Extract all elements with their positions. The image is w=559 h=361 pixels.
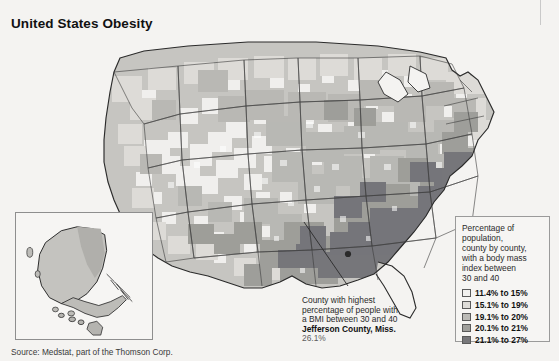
alaska-hawaii-inset	[15, 212, 153, 340]
callout-annotation: County with highest percentage of people…	[302, 296, 454, 344]
highest-county-marker	[345, 251, 351, 257]
legend-heading: Percentage of population, county by coun…	[462, 223, 544, 284]
legend-row: 15.1% to 19%	[462, 299, 544, 311]
legend-row: 11.4% to 15%	[462, 288, 544, 300]
legend-row: 20.1% to 21%	[462, 322, 544, 334]
legend-row: 19.1% to 20%	[462, 311, 544, 323]
legend-label-3: 19.1% to 20%	[475, 312, 528, 322]
callout-value: 26.1%	[302, 334, 454, 344]
legend-label-5: 21.1% to 27%	[475, 335, 528, 345]
inset-map-svg	[16, 213, 152, 339]
page-edge-artifact	[120, 0, 541, 25]
legend-row: 21.1% to 27%	[462, 334, 544, 346]
source-note: Source: Medstat, part of the Thomson Cor…	[11, 347, 173, 357]
legend-swatch-3	[462, 313, 471, 321]
page-title: United States Obesity	[11, 16, 153, 31]
legend-swatch-4	[462, 324, 471, 332]
legend: Percentage of population, county by coun…	[455, 216, 550, 342]
legend-label-2: 15.1% to 19%	[475, 300, 528, 310]
legend-swatch-2	[462, 301, 471, 309]
figure-container: United States Obesity	[0, 0, 559, 361]
legend-label-4: 20.1% to 21%	[475, 323, 528, 333]
legend-swatch-1	[462, 289, 471, 297]
legend-swatch-5	[462, 336, 471, 344]
legend-label-1: 11.4% to 15%	[475, 288, 528, 298]
